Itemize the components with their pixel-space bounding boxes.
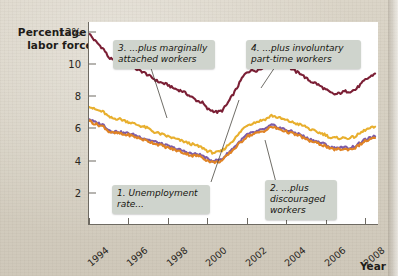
x-tick-label: 2002 [243, 245, 269, 269]
chart-figure: Percentage of labor force Year 24681012%… [0, 0, 398, 276]
callout-marginally-attached[interactable]: 3. ...plus marginally attached workers [113, 40, 215, 69]
x-tick-label: 1996 [125, 245, 151, 269]
y-tick-label: 12% [59, 26, 81, 37]
callout-involuntary-part-time[interactable]: 4. ...plus involuntary part-time workers [246, 40, 361, 69]
x-tick-label: 2004 [282, 245, 308, 269]
callout-discouraged-workers[interactable]: 2. ...plus discouraged workers [265, 180, 337, 220]
x-tick-label: 1998 [164, 245, 190, 269]
y-tick-label: 6 [75, 123, 81, 134]
y-tick-label: 2 [75, 187, 81, 198]
series-line [89, 119, 375, 162]
y-tick-label: 8 [75, 91, 81, 102]
x-tick-label: 2006 [322, 245, 348, 269]
y-tick-label: 10 [68, 58, 81, 69]
callout-unemployment-rate[interactable]: 1. Unemployment rate... [112, 185, 210, 214]
x-tick-label: 2000 [203, 245, 229, 269]
x-tick-label: 1994 [85, 245, 111, 269]
y-tick-label: 4 [75, 155, 81, 166]
